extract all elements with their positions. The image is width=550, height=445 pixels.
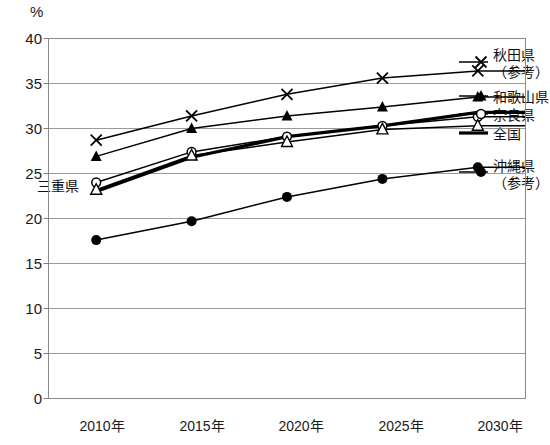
gridlines — [49, 84, 526, 354]
chart-container: % 40 35 30 25 20 15 10 5 0 2010年 2015年 2… — [0, 0, 550, 445]
chart-svg — [0, 0, 550, 445]
y-tick-marks — [44, 39, 49, 399]
